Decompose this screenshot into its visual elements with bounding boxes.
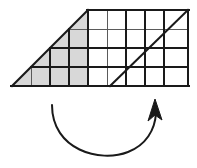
geometry-diagram	[0, 0, 197, 168]
rotation-arrow-curve	[52, 105, 156, 156]
rotation-arrow-group	[52, 99, 162, 156]
figure-root	[0, 0, 197, 168]
